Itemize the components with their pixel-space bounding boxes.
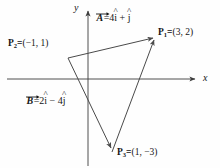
vector-b-label: B =2^i − 4^j	[26, 96, 66, 106]
x-axis-label: x	[203, 73, 207, 83]
hat-accent-icon: ^	[62, 90, 66, 99]
unit-vector-j-icon: ^j	[128, 13, 131, 23]
vector-diagram-figure: y x A =4^i + ^j B =2^i − 4^j P1=(3, 2) P…	[0, 0, 220, 168]
point-p3-value: (1, −3)	[131, 147, 157, 157]
unit-vector-i-icon: ^i	[44, 96, 47, 106]
vector-b-name: B	[26, 95, 34, 106]
y-axis-label: y	[74, 3, 78, 13]
point-p2-label: P2=(−1, 1)	[8, 39, 48, 49]
diagram-canvas	[0, 0, 220, 168]
point-p2-value: (−1, 1)	[22, 38, 48, 48]
vector-b-operator: −	[50, 95, 56, 106]
vector-a-arrow	[68, 38, 153, 58]
point-p1-value: (3, 2)	[172, 27, 193, 37]
hat-accent-icon: ^	[44, 90, 48, 99]
hat-accent-icon: ^	[127, 7, 131, 16]
vector-p3-to-p1-arrow	[112, 40, 154, 152]
vector-a-label: A =4^i + ^j	[96, 13, 131, 23]
vector-a-operator: +	[120, 12, 126, 23]
vector-a-line	[68, 38, 153, 58]
unit-vector-j-icon: ^j	[63, 96, 66, 106]
hat-accent-icon: ^	[114, 7, 118, 16]
point-p3-label: P3=(1, −3)	[117, 148, 157, 158]
vector-p3-p1-line	[112, 40, 154, 152]
vector-b-arrow	[68, 58, 111, 148]
unit-vector-i-icon: ^i	[114, 13, 117, 23]
vector-a-name: A	[96, 12, 104, 23]
point-p1-label: P1=(3, 2)	[158, 28, 193, 38]
vector-b-line	[68, 58, 111, 148]
